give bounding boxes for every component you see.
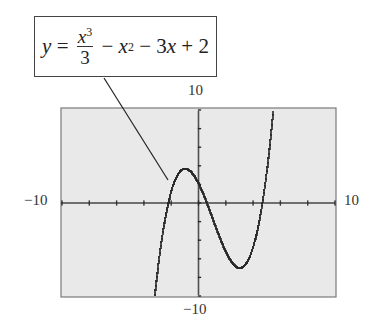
graph-screen <box>0 0 380 329</box>
